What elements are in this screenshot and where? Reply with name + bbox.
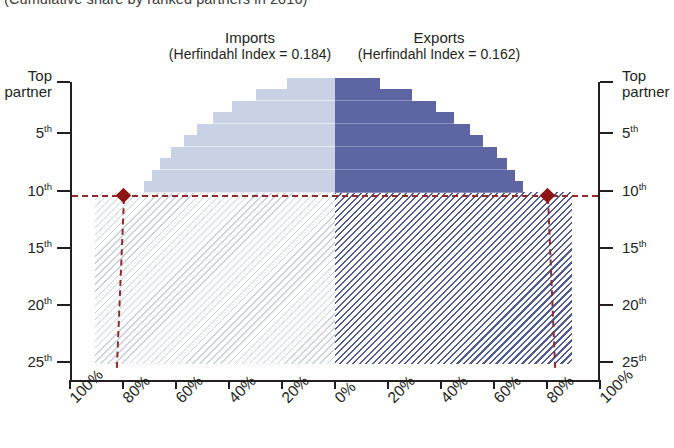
- y-label-left-25: 25th: [27, 353, 52, 370]
- x-label-exports-20: 20%: [384, 372, 419, 407]
- y-label-left-10: 10th: [27, 182, 52, 199]
- step-row: [184, 135, 335, 147]
- y-label-right-top-partner: Toppartner: [622, 68, 670, 100]
- y-label-right-25: 25th: [622, 353, 647, 370]
- y-tick-right: [600, 81, 613, 83]
- x-label-exports-60: 60%: [490, 372, 525, 407]
- y-axis-left: [70, 82, 72, 380]
- y-tick-left: [57, 190, 70, 192]
- step-row: [160, 158, 335, 170]
- step-row: [335, 112, 454, 124]
- step-row: [335, 89, 412, 101]
- y-tick-right: [600, 132, 613, 134]
- plot-area: [70, 78, 600, 368]
- step-row: [335, 158, 507, 170]
- exports-area: [335, 78, 600, 368]
- step-row: [256, 89, 336, 101]
- y-label-right-10: 10th: [622, 182, 647, 199]
- step-row: [335, 101, 436, 113]
- y-tick-left: [57, 361, 70, 363]
- step-row: [144, 181, 335, 193]
- y-label-right-15: 15th: [622, 239, 647, 256]
- y-tick-left: [57, 304, 70, 306]
- y-label-left-15: 15th: [27, 239, 52, 256]
- step-row: [213, 112, 335, 124]
- y-tick-left: [57, 247, 70, 249]
- step-row: [152, 170, 335, 182]
- exports-herfindahl-label: (Herfindahl Index = 0.162): [324, 47, 554, 63]
- step-row: [335, 147, 497, 159]
- y-tick-right: [600, 361, 613, 363]
- step-row: [335, 78, 380, 90]
- y-label-left-5: 5th: [36, 124, 52, 141]
- y-tick-right: [600, 190, 613, 192]
- imports-step-rows: [70, 78, 335, 368]
- step-row: [335, 181, 523, 193]
- exports-panel-heading: Exports (Herfindahl Index = 0.162): [324, 30, 554, 62]
- x-label-imports-80: 80%: [119, 372, 154, 407]
- imports-area: [70, 78, 335, 368]
- step-row: [335, 135, 483, 147]
- step-row: [335, 170, 515, 182]
- step-row: [232, 101, 335, 113]
- x-label-imports-20: 20%: [278, 372, 313, 407]
- x-label-exports-100: 100%: [596, 366, 637, 407]
- y-label-left-top-partner: Toppartner: [4, 68, 52, 100]
- y-label-right-20: 20th: [622, 296, 647, 313]
- y-label-left-20: 20th: [27, 296, 52, 313]
- x-label-exports-40: 40%: [437, 372, 472, 407]
- step-row: [335, 124, 470, 136]
- x-label-imports-60: 60%: [172, 372, 207, 407]
- x-label-exports-80: 80%: [543, 372, 578, 407]
- y-tick-left: [57, 81, 70, 83]
- y-tick-right: [600, 304, 613, 306]
- x-label-imports-40: 40%: [225, 372, 260, 407]
- exports-title: Exports: [324, 30, 554, 47]
- step-row: [197, 124, 335, 136]
- y-axis-right: [598, 82, 600, 380]
- x-label-imports-100: 100%: [66, 366, 107, 407]
- reference-line-10th: [72, 195, 598, 197]
- y-tick-right: [600, 247, 613, 249]
- chart-subtitle: (Cumulative share by ranked partners in …: [4, 0, 308, 7]
- chart-canvas: (Cumulative share by ranked partners in …: [0, 0, 674, 448]
- step-row: [171, 147, 335, 159]
- y-label-right-5: 5th: [622, 124, 638, 141]
- y-tick-left: [57, 132, 70, 134]
- step-row: [287, 78, 335, 90]
- exports-step-rows: [335, 78, 600, 368]
